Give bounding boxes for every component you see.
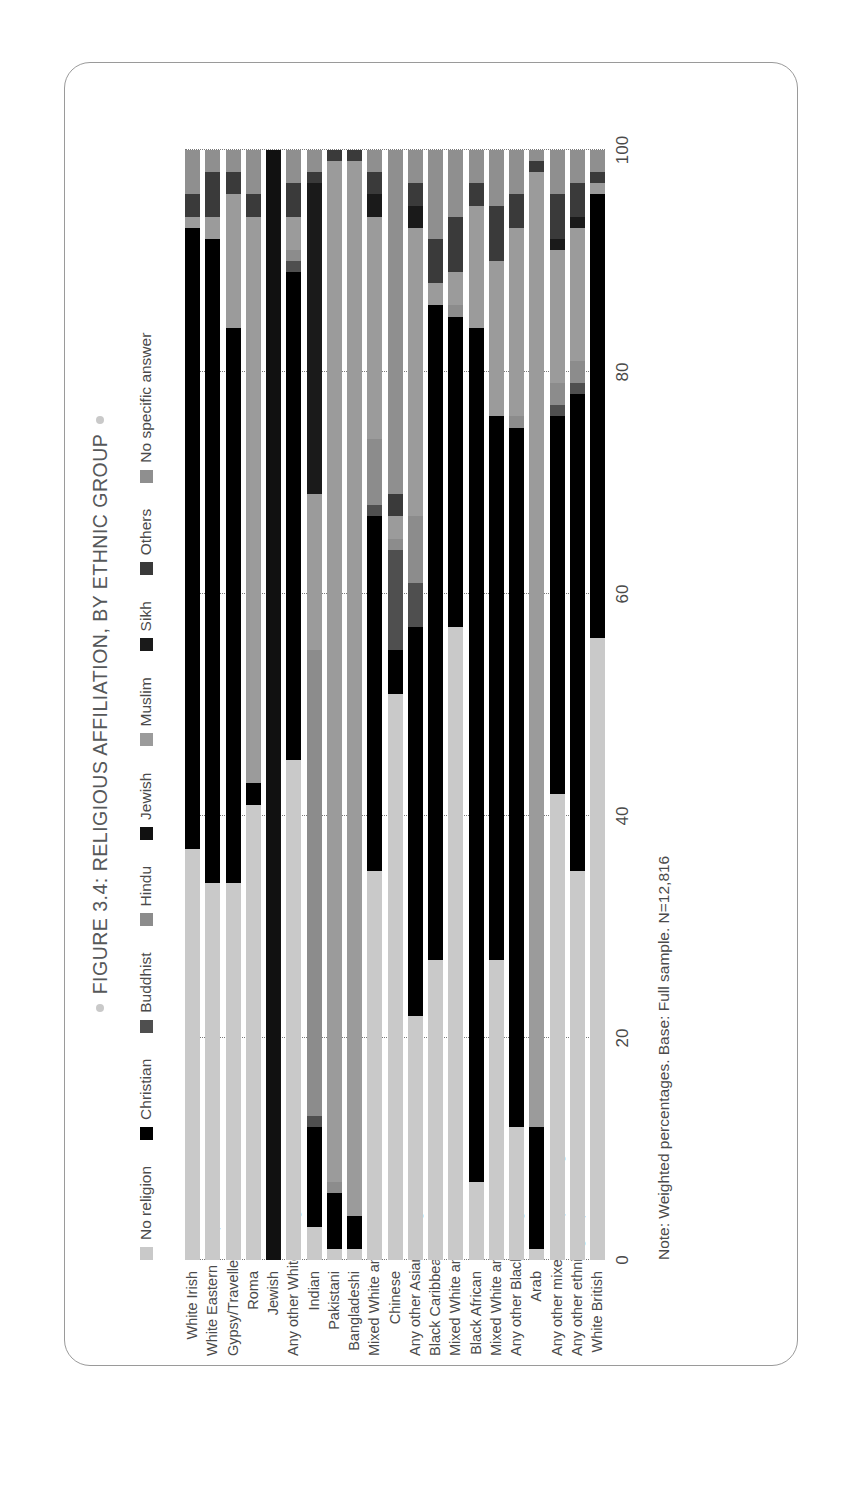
bar-segment	[590, 150, 605, 172]
bar-segment	[205, 150, 220, 172]
bar-segment	[509, 416, 524, 427]
bar-segment	[550, 150, 565, 194]
bar-row[interactable]	[347, 150, 362, 1260]
legend-item[interactable]: No specific answer	[137, 333, 155, 483]
legend-item[interactable]: Others	[137, 509, 155, 576]
bar-segment	[388, 650, 403, 694]
bar-row[interactable]	[367, 150, 382, 1260]
bar-segment	[408, 516, 423, 583]
bar-row[interactable]	[590, 150, 605, 1260]
bar-segment	[448, 317, 463, 628]
axis-tick-label: 40	[613, 807, 633, 826]
bar-segment	[367, 217, 382, 439]
bar-segment	[367, 872, 382, 1261]
bar-segment	[185, 150, 200, 194]
bar-segment	[388, 550, 403, 650]
legend-item-label: Jewish	[137, 773, 155, 820]
bar-segment	[489, 150, 504, 206]
bar-segment	[570, 383, 585, 394]
bar-segment	[570, 183, 585, 216]
category-label: Pakistani	[327, 1264, 342, 1356]
bar-row[interactable]	[307, 150, 322, 1260]
bar-segment	[286, 250, 301, 261]
title-bullet-right-icon	[96, 416, 104, 424]
legend-swatch-icon	[140, 1127, 153, 1140]
category-label: Arab	[529, 1264, 544, 1356]
category-label: White Eastern European	[205, 1264, 220, 1356]
bar-segment	[570, 228, 585, 361]
category-label: Any other mixed/multiple background	[550, 1264, 565, 1356]
category-axis-labels: White IrishWhite Eastern EuropeanGypsy/T…	[185, 1264, 605, 1356]
bar-segment	[550, 239, 565, 250]
bar-row[interactable]	[286, 150, 301, 1260]
bar-row[interactable]	[428, 150, 443, 1260]
value-axis-ticks: 020406080100	[613, 150, 639, 1260]
legend-swatch-icon	[140, 1020, 153, 1033]
bar-segment	[469, 1182, 484, 1260]
bar-segment	[286, 272, 301, 760]
legend-item[interactable]: Christian	[137, 1059, 155, 1140]
bar-segment	[205, 883, 220, 1260]
bar-row[interactable]	[246, 150, 261, 1260]
axis-tick-label: 80	[613, 363, 633, 382]
bar-segment	[205, 172, 220, 216]
category-label: White Irish	[185, 1264, 200, 1356]
bar-row[interactable]	[509, 150, 524, 1260]
bar-segment	[469, 183, 484, 205]
legend-item[interactable]: Hindu	[137, 866, 155, 927]
legend-item[interactable]: Jewish	[137, 773, 155, 840]
bar-row[interactable]	[469, 150, 484, 1260]
bar-segment	[367, 505, 382, 516]
bar-segment	[489, 261, 504, 416]
legend-swatch-icon	[140, 734, 153, 747]
legend-item[interactable]: No religion	[137, 1166, 155, 1260]
bar-segment	[570, 150, 585, 183]
bar-row[interactable]	[408, 150, 423, 1260]
bar-segment	[286, 217, 301, 250]
figure-canvas: FIGURE 3.4: RELIGIOUS AFFILIATION, BY ET…	[73, 72, 789, 1356]
bar-segment	[448, 305, 463, 316]
bar-segment	[226, 150, 241, 172]
bar-row[interactable]	[388, 150, 403, 1260]
bar-segment	[327, 161, 342, 1182]
bar-segment	[307, 172, 322, 183]
bar-segment	[327, 1182, 342, 1193]
bar-segment	[448, 627, 463, 1260]
bar-segment	[570, 872, 585, 1261]
bar-row[interactable]	[570, 150, 585, 1260]
bar-segment	[307, 494, 322, 649]
legend-item[interactable]: Muslim	[137, 677, 155, 746]
bar-segment	[307, 1227, 322, 1260]
title-bullet-left-icon	[96, 1004, 104, 1012]
bar-row[interactable]	[489, 150, 504, 1260]
bar-row[interactable]	[529, 150, 544, 1260]
bar-row[interactable]	[185, 150, 200, 1260]
legend-item[interactable]: Buddhist	[137, 952, 155, 1032]
bar-segment	[408, 583, 423, 627]
bar-segment	[489, 960, 504, 1260]
bar-segment	[347, 161, 362, 1216]
figure-frame: FIGURE 3.4: RELIGIOUS AFFILIATION, BY ET…	[64, 62, 798, 1366]
bar-row[interactable]	[550, 150, 565, 1260]
bar-row[interactable]	[226, 150, 241, 1260]
bar-segment	[246, 217, 261, 783]
category-label: Any other Asian background	[408, 1264, 423, 1356]
bar-row[interactable]	[327, 150, 342, 1260]
bar-row[interactable]	[448, 150, 463, 1260]
bar-segment	[489, 416, 504, 960]
bar-segment	[347, 1216, 362, 1249]
legend-swatch-icon	[140, 470, 153, 483]
category-label: Any other ethnic group	[570, 1264, 585, 1356]
bar-row[interactable]	[205, 150, 220, 1260]
legend-item[interactable]: Sikh	[137, 601, 155, 651]
bar-segment	[347, 1249, 362, 1260]
bar-segment	[307, 150, 322, 172]
legend-swatch-icon	[140, 827, 153, 840]
bar-segment	[529, 1127, 544, 1249]
legend-swatch-icon	[140, 1247, 153, 1260]
bar-segment	[205, 239, 220, 883]
bar-row[interactable]	[266, 150, 281, 1260]
bar-segment	[307, 650, 322, 1116]
legend-item-label: Buddhist	[137, 952, 155, 1012]
bar-segment	[246, 150, 261, 194]
